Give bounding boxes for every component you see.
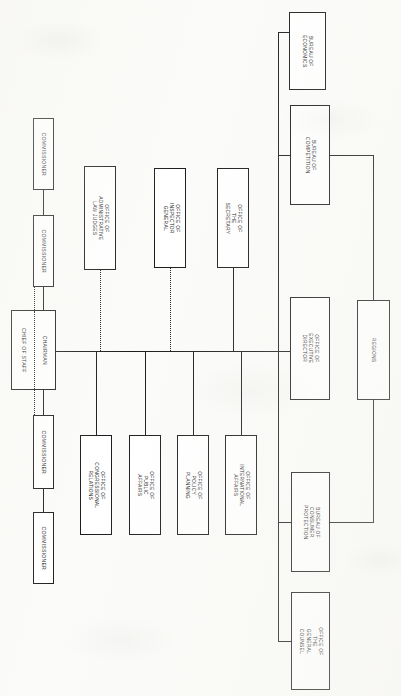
node-commissioner-1[interactable]: COMMISSIONER [33, 118, 54, 190]
connector-stub-bureau-economics [278, 32, 289, 33]
connector-stub-bureau-competition [278, 155, 290, 156]
node-commissioner-3[interactable]: COMMISSIONER [33, 415, 54, 489]
connector-office-secretary [233, 268, 234, 351]
connector-dotted-inspector-general [170, 268, 171, 351]
connector-public-affairs [145, 351, 146, 435]
connector-stub-bureau-consumer-protection [278, 522, 291, 523]
node-bureau-economics[interactable]: BUREAU OF ECONOMICS [289, 12, 326, 90]
connector-chairman-to-commissioner3 [43, 390, 44, 415]
connector-regions-upper-horizontal [330, 155, 374, 156]
connector-regions-lower-horizontal [330, 522, 374, 523]
connector-dotted-chief-of-staff-down [34, 390, 35, 415]
node-office-policy-planning[interactable]: OFFICE OF POLICY PLANNING [177, 435, 209, 535]
node-label: COMMISSIONER [40, 526, 47, 569]
connector-policy-planning [193, 351, 194, 435]
node-office-general-counsel[interactable]: OFFICE OF THE GENERAL COUNSEL [291, 592, 330, 690]
connector-dotted-admin-law-judges [100, 270, 101, 351]
node-office-administrative-law-judges[interactable]: OFFICE OF ADMINISTRATIVE LAW JUDGES [84, 166, 116, 270]
node-label: OFFICE OF INSPECTOR GENERAL [161, 203, 180, 234]
node-chairman-chief-of-staff[interactable]: CHIEF OF STAFF CHAIRMAN [11, 310, 56, 390]
node-label: OFFICE OF POLICY PLANNING [184, 470, 203, 500]
node-office-congressional-relations[interactable]: OFFICE OF CONGRESSIONAL RELATIONS [80, 435, 112, 535]
node-office-public-affairs[interactable]: OFFICE OF PUBLIC AFFAIRS [129, 435, 161, 535]
paper-texture-overlay [0, 0, 401, 696]
node-label: OFFICE OF THE GENERAL COUNSEL [298, 623, 323, 660]
node-label: OFFICE OF PUBLIC AFFAIRS [136, 470, 155, 500]
node-chairman[interactable]: CHAIRMAN [34, 311, 56, 389]
connector-regions-vertical-lower [373, 400, 374, 522]
connector-regions-vertical-upper [373, 155, 374, 301]
node-chief-of-staff[interactable]: CHIEF OF STAFF [12, 311, 34, 389]
node-label: CHIEF OF STAFF [19, 328, 26, 372]
node-office-international-affairs[interactable]: OFFICE OF INTERNATIONAL AFFAIRS [225, 435, 257, 535]
node-office-secretary[interactable]: OFFICE OF THE SECRETARY [217, 168, 249, 268]
node-commissioner-2[interactable]: COMMISSIONER [33, 215, 54, 287]
connector-commissioner2-to-chairman [43, 287, 44, 310]
connector-stub-office-general-counsel [278, 641, 291, 642]
node-label: COMMISSIONER [40, 229, 47, 272]
connector-congressional-relations [96, 351, 97, 435]
connector-right-trunk-vertical [278, 32, 279, 642]
node-regions[interactable]: REGIONS [357, 300, 390, 400]
node-label: OFFICE OF EXECUTIVE DIRECTOR [301, 334, 320, 364]
node-office-executive-director[interactable]: OFFICE OF EXECUTIVE DIRECTOR [290, 297, 330, 400]
node-bureau-competition[interactable]: BUREAU OF COMPETITION [290, 105, 330, 205]
connector-international-affairs [241, 351, 242, 435]
node-label: COMMISSIONER [40, 132, 47, 175]
node-label: REGIONS [370, 338, 376, 362]
org-chart: COMMISSIONER COMMISSIONER CHIEF OF STAFF… [0, 0, 401, 696]
node-office-inspector-general[interactable]: OFFICE OF INSPECTOR GENERAL [154, 168, 186, 268]
node-label: OFFICE OF ADMINISTRATIVE LAW JUDGES [91, 196, 110, 240]
node-label: CHAIRMAN [41, 335, 48, 364]
connector-dotted-chief-of-staff-up [34, 287, 35, 310]
connector-commissioner1-to-commissioner2 [43, 190, 44, 215]
connector-commissioner3-to-commissioner4 [43, 489, 44, 512]
node-bureau-consumer-protection[interactable]: BUREAU OF CONSUMER PROTECTION [291, 472, 330, 572]
node-label: OFFICE OF INTERNATIONAL AFFAIRS [232, 464, 251, 506]
connector-stub-office-executive-director [278, 351, 290, 352]
node-label: COMMISSIONER [40, 430, 47, 473]
node-commissioner-4[interactable]: COMMISSIONER [33, 512, 54, 584]
node-label: BUREAU OF COMPETITION [304, 136, 316, 174]
node-label: BUREAU OF CONSUMER PROTECTION [301, 503, 320, 540]
node-label: OFFICE OF THE SECRETARY [224, 202, 243, 234]
node-label: OFFICE OF CONGRESSIONAL RELATIONS [87, 462, 106, 508]
node-label: BUREAU OF ECONOMICS [301, 35, 313, 67]
connector-main-trunk-horizontal [56, 351, 279, 352]
